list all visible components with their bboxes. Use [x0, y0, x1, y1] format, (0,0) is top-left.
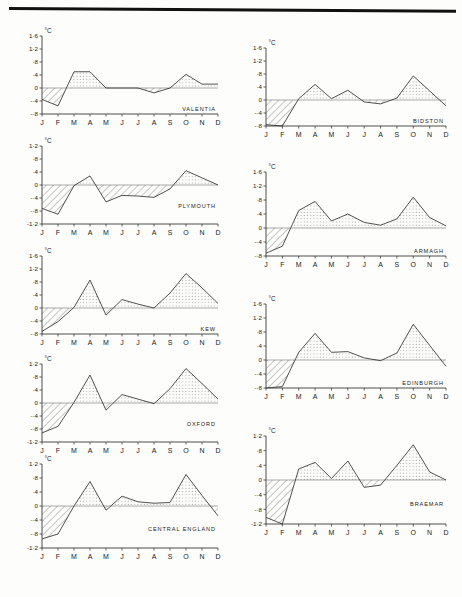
- x-tick-label-month: N: [427, 393, 432, 400]
- page-edge-rule: [9, 7, 456, 13]
- x-tick-label-month: J: [40, 339, 44, 346]
- y-axis-unit-label: °C: [45, 355, 53, 362]
- y-tick-label: 1·2: [29, 265, 39, 272]
- x-tick-label-month: J: [346, 131, 350, 138]
- y-tick-label: 0: [35, 84, 39, 91]
- x-tick-label-month: N: [427, 261, 432, 268]
- y-axis-unit-label: °C: [45, 455, 53, 462]
- negative-anomaly-fill: [266, 360, 295, 388]
- chart-panel-valentia: 1·61·2·8·40-·4-·8°CJFMAMJJASONDVALENTIA: [12, 24, 224, 136]
- y-tick-label: -·8: [254, 122, 262, 129]
- positive-anomaly-fill: [111, 475, 210, 507]
- y-tick-label: -·4: [30, 194, 38, 201]
- x-tick-label-month: O: [411, 131, 417, 138]
- plot-area-valentia: 1·61·2·8·40-·4-·8°CJFMAMJJASONDVALENTIA: [12, 24, 224, 136]
- y-axis-unit-label: °C: [269, 163, 277, 170]
- x-tick-label-month: J: [346, 393, 350, 400]
- x-tick-label-month: F: [280, 393, 284, 400]
- x-tick-label-month: A: [152, 553, 157, 560]
- x-tick-label-month: F: [56, 339, 60, 346]
- x-tick-label-month: S: [395, 393, 400, 400]
- x-tick-label-month: M: [103, 339, 109, 346]
- y-tick-label: ·8: [256, 328, 262, 335]
- y-tick-label: ·4: [32, 488, 38, 495]
- x-tick-label-month: D: [443, 393, 448, 400]
- x-tick-label-month: A: [152, 229, 157, 236]
- station-label: BRAEMAR: [410, 501, 444, 507]
- anomaly-curve: [42, 72, 218, 106]
- x-tick-label-month: O: [411, 529, 417, 536]
- x-tick-label-month: F: [280, 131, 284, 138]
- x-tick-label-month: M: [329, 529, 335, 536]
- plot-area-oxford: 1·2·8·40-·4-·8-1·2°CJFMAMJJASONDOXFORD: [12, 352, 224, 464]
- y-axis-unit-label: °C: [269, 295, 277, 302]
- chart-panel-plymouth: 1·2·8·40-·4-·8-1·2°CJFMAMJJASONDPLYMOUTH: [12, 134, 224, 246]
- y-tick-label: 1·2: [253, 182, 263, 189]
- x-tick-label-month: J: [362, 131, 366, 138]
- chart-panel-edinburgh: 1·61·2·8·40-·4-·8°CJFMAMJJASONDEDINBURGH: [236, 292, 452, 410]
- chart-panel-bidston: 1·61·2·8·40-·4-·8°CJFMAMJJASONDBIDSTON: [236, 36, 452, 148]
- x-tick-label-month: S: [168, 339, 173, 346]
- chart-panel-oxford: 1·2·8·40-·4-·8-1·2°CJFMAMJJASONDOXFORD: [12, 352, 224, 464]
- y-tick-label: -·4: [30, 412, 38, 419]
- y-tick-label: ·4: [32, 291, 38, 298]
- x-tick-label-month: J: [362, 393, 366, 400]
- plot-area-armagh: 1·61·2·8·40-·4-·8°CJFMAMJJASONDARMAGH: [236, 160, 452, 278]
- x-tick-label-month: A: [378, 131, 383, 138]
- x-tick-label-month: J: [120, 229, 124, 236]
- x-tick-label-month: A: [88, 339, 93, 346]
- y-tick-label: 0: [35, 181, 39, 188]
- positive-anomaly-fill: [295, 333, 376, 360]
- y-tick-label: ·8: [256, 196, 262, 203]
- x-tick-label-month: S: [395, 529, 400, 536]
- x-tick-label-month: J: [136, 119, 140, 126]
- x-tick-label-month: A: [313, 261, 318, 268]
- positive-anomaly-fill: [391, 76, 439, 100]
- x-tick-label-month: D: [215, 119, 220, 126]
- negative-anomaly-fill: [138, 88, 170, 93]
- x-tick-label-month: O: [183, 553, 189, 560]
- x-tick-label-month: M: [296, 131, 302, 138]
- x-tick-label-month: J: [40, 119, 44, 126]
- x-tick-label-month: A: [313, 529, 318, 536]
- x-tick-label-month: M: [103, 553, 109, 560]
- positive-anomaly-fill: [382, 324, 441, 360]
- negative-anomaly-fill: [266, 100, 298, 126]
- positive-anomaly-fill: [66, 72, 138, 88]
- y-tick-label: -·4: [30, 317, 38, 324]
- y-tick-label: -1·2: [27, 544, 39, 551]
- y-tick-label: 1·2: [253, 432, 263, 439]
- x-tick-label-month: S: [395, 261, 400, 268]
- plot-area-plymouth: 1·2·8·40-·4-·8-1·2°CJFMAMJJASONDPLYMOUTH: [12, 134, 224, 246]
- x-tick-label-month: M: [296, 393, 302, 400]
- x-tick-label-month: S: [168, 119, 173, 126]
- x-tick-label-month: A: [378, 529, 383, 536]
- y-tick-label: 1·6: [29, 32, 39, 39]
- x-tick-label-month: S: [168, 553, 173, 560]
- y-tick-label: ·8: [256, 70, 262, 77]
- x-tick-label-month: D: [215, 339, 220, 346]
- x-tick-label-month: D: [215, 229, 220, 236]
- y-tick-label: ·4: [256, 210, 262, 217]
- x-tick-label-month: J: [264, 529, 268, 536]
- y-tick-label: ·4: [32, 386, 38, 393]
- x-tick-label-month: M: [71, 229, 77, 236]
- y-tick-label: -1·2: [27, 220, 39, 227]
- x-tick-label-month: N: [199, 119, 204, 126]
- y-tick-label: -·4: [254, 370, 262, 377]
- y-tick-label: ·4: [256, 83, 262, 90]
- y-tick-label: -·4: [254, 238, 262, 245]
- x-tick-label-month: J: [362, 529, 366, 536]
- positive-anomaly-fill: [74, 482, 104, 507]
- x-tick-label-month: A: [378, 261, 383, 268]
- y-tick-label: ·4: [32, 168, 38, 175]
- y-tick-label: -·4: [254, 109, 262, 116]
- y-tick-label: 1·6: [253, 168, 263, 175]
- y-tick-label: 1·2: [29, 460, 39, 467]
- x-tick-label-month: M: [103, 119, 109, 126]
- y-tick-label: ·4: [32, 71, 38, 78]
- chart-panel-armagh: 1·61·2·8·40-·4-·8°CJFMAMJJASONDARMAGH: [236, 160, 452, 278]
- x-tick-label-month: M: [71, 553, 77, 560]
- y-tick-label: -·4: [30, 97, 38, 104]
- x-tick-label-month: D: [443, 261, 448, 268]
